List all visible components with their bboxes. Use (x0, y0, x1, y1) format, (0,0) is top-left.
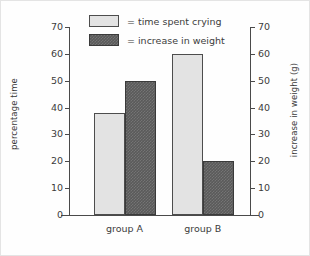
tick-mark (65, 54, 69, 55)
bar (172, 54, 203, 215)
y-axis-right-tick-label: 0 (258, 210, 282, 220)
legend-label-time-spent-crying: = time spent crying (127, 16, 222, 27)
plot-area: 010203040506070 010203040506070 group Ag… (69, 27, 251, 215)
bar (203, 161, 234, 215)
y-axis-left-tick-label: 20 (39, 156, 63, 166)
y-axis-right-tick-label: 50 (258, 76, 282, 86)
y-axis-left-tick-label: 60 (39, 49, 63, 59)
x-axis-category-label: group A (90, 223, 160, 234)
x-axis-line (61, 215, 259, 216)
y-axis-left-tick-label: 10 (39, 183, 63, 193)
y-axis-left-tick-label: 40 (39, 103, 63, 113)
tick-mark (65, 108, 69, 109)
y-axis-right-tick-label: 10 (258, 183, 282, 193)
tick-mark (251, 161, 255, 162)
tick-mark (251, 215, 255, 216)
y-axis-left-tick-label: 70 (39, 22, 63, 32)
y-axis-left-tick-label: 50 (39, 76, 63, 86)
tick-mark (65, 81, 69, 82)
tick-mark (65, 215, 69, 216)
tick-mark (251, 188, 255, 189)
tick-mark (251, 134, 255, 135)
y-axis-left-tick-label: 30 (39, 129, 63, 139)
tick-mark (251, 27, 255, 28)
y-axis-left-tick-label: 0 (39, 210, 63, 220)
tick-mark (65, 134, 69, 135)
bar (94, 113, 125, 215)
y-axis-left-title: percentage time (9, 74, 19, 154)
legend-swatch-light (89, 15, 119, 27)
y-axis-right-tick-label: 70 (258, 22, 282, 32)
tick-mark (65, 161, 69, 162)
tick-mark (251, 81, 255, 82)
tick-mark (65, 188, 69, 189)
x-axis-category-label: group B (168, 223, 238, 234)
y-axis-right-tick-label: 30 (258, 129, 282, 139)
y-axis-right-tick-label: 40 (258, 103, 282, 113)
y-axis-right-title: increase in weight (g) (289, 60, 299, 160)
y-axis-right-tick-label: 20 (258, 156, 282, 166)
bar (125, 81, 156, 215)
y-axis-left-line (69, 27, 70, 216)
tick-mark (65, 27, 69, 28)
tick-mark (251, 54, 255, 55)
y-axis-right-tick-label: 60 (258, 49, 282, 59)
chart-figure: percentage time increase in weight (g) =… (0, 0, 310, 256)
tick-mark (251, 108, 255, 109)
